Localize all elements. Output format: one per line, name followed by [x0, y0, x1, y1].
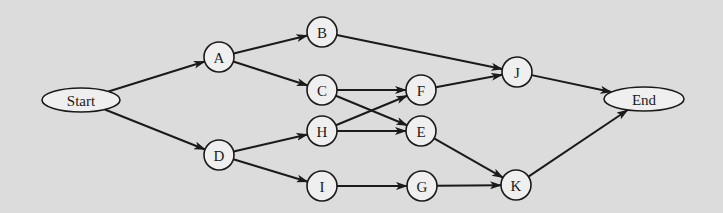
node-e: E	[406, 116, 436, 146]
edge-c-to-e	[336, 96, 407, 126]
node-k-label: K	[511, 178, 522, 194]
edge-start-to-a	[108, 61, 204, 91]
node-b-label: B	[317, 25, 327, 41]
edges	[105, 35, 628, 186]
edge-b-to-j	[337, 35, 503, 69]
edge-a-to-b	[234, 36, 308, 54]
nodes: StartADBCHIFEGJKEnd	[42, 17, 684, 201]
node-a: A	[204, 42, 234, 72]
node-f-label: F	[417, 83, 425, 99]
node-f: F	[406, 75, 436, 105]
node-end-label: End	[632, 92, 657, 108]
node-j-label: J	[514, 65, 520, 81]
node-start-label: Start	[67, 93, 96, 109]
edge-d-to-i	[233, 159, 307, 181]
node-d-label: D	[214, 148, 225, 164]
node-a-label: A	[214, 50, 225, 66]
node-i-label: I	[320, 179, 325, 195]
node-c: C	[307, 75, 337, 105]
node-j: J	[502, 57, 532, 87]
node-start: Start	[42, 88, 120, 112]
node-b: B	[307, 17, 337, 47]
edge-start-to-d	[105, 109, 205, 149]
node-g: G	[407, 171, 437, 201]
node-e-label: E	[416, 124, 425, 140]
node-h-label: H	[317, 124, 328, 140]
node-d: D	[204, 140, 234, 170]
node-g-label: G	[417, 179, 428, 195]
edge-a-to-c	[233, 62, 307, 86]
edge-f-to-j	[436, 75, 503, 87]
edge-h-to-f	[336, 96, 407, 126]
network-diagram: StartADBCHIFEGJKEnd	[0, 0, 723, 213]
node-c-label: C	[317, 83, 327, 99]
node-i: I	[307, 171, 337, 201]
node-k: K	[501, 170, 531, 200]
node-h: H	[307, 116, 337, 146]
edge-k-to-end	[528, 110, 627, 177]
edge-g-to-k	[437, 185, 501, 186]
edge-j-to-end	[532, 75, 612, 92]
edge-e-to-k	[434, 138, 503, 177]
edge-d-to-h	[234, 134, 308, 151]
node-end: End	[604, 87, 684, 111]
